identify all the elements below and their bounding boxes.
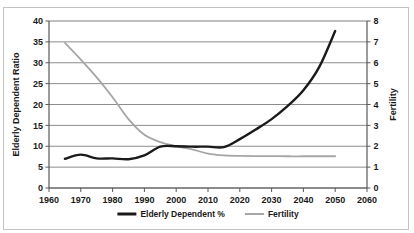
left-axis: 0510152025303540 — [33, 16, 49, 193]
left-axis-title: Elderly Dependent Ratio — [11, 52, 21, 157]
left-axis-tick-label: 35 — [33, 37, 43, 47]
x-axis-tick-label: 2020 — [230, 195, 250, 205]
chart-plot-area: 0510152025303540012345678196019701980199… — [4, 8, 408, 229]
legend-label: Fertility — [268, 209, 299, 219]
right-axis-tick-label: 2 — [374, 141, 379, 151]
x-axis-tick-label: 2010 — [198, 195, 218, 205]
legend-label: Elderly Dependent % — [140, 209, 225, 219]
right-axis-tick-label: 5 — [374, 79, 379, 89]
right-axis-tick-label: 4 — [374, 100, 379, 110]
left-axis-tick-label: 40 — [33, 16, 43, 26]
right-axis-title: Fertility — [388, 88, 398, 121]
chart-legend: Elderly Dependent %Fertility — [117, 209, 299, 219]
x-axis-tick-label: 2040 — [293, 195, 313, 205]
left-axis-tick-label: 5 — [38, 162, 43, 172]
chart-container: 0510152025303540012345678196019701980199… — [0, 0, 414, 233]
gridlines-group — [49, 21, 367, 188]
right-axis: 012345678 — [367, 16, 379, 193]
series-line-elderly-dependent — [65, 31, 335, 159]
right-axis-tick-label: 1 — [374, 162, 379, 172]
right-axis-tick-label: 6 — [374, 58, 379, 68]
right-axis-tick-label: 8 — [374, 16, 379, 26]
x-axis-tick-label: 2050 — [325, 195, 345, 205]
left-axis-tick-label: 20 — [33, 100, 43, 110]
left-axis-tick-label: 25 — [33, 79, 43, 89]
left-axis-tick-label: 0 — [38, 183, 43, 193]
x-axis-tick-label: 2060 — [357, 195, 377, 205]
left-axis-tick-label: 10 — [33, 141, 43, 151]
x-axis: 1960197019801990200020102020203020402050… — [39, 188, 377, 205]
chart-outer-frame: 0510152025303540012345678196019701980199… — [3, 7, 409, 230]
right-axis-tick-label: 3 — [374, 121, 379, 131]
x-axis-tick-label: 2030 — [262, 195, 282, 205]
left-axis-tick-label: 30 — [33, 58, 43, 68]
x-axis-tick-label: 1970 — [71, 195, 91, 205]
right-axis-tick-label: 7 — [374, 37, 379, 47]
left-axis-tick-label: 15 — [33, 121, 43, 131]
chart-title-clipped — [0, 0, 414, 6]
x-axis-tick-label: 1980 — [103, 195, 123, 205]
x-axis-tick-label: 1960 — [39, 195, 59, 205]
x-axis-tick-label: 1990 — [134, 195, 154, 205]
right-axis-tick-label: 0 — [374, 183, 379, 193]
x-axis-tick-label: 2000 — [166, 195, 186, 205]
